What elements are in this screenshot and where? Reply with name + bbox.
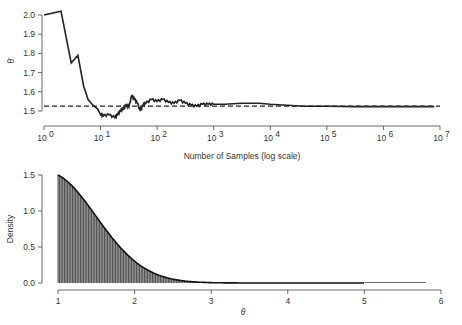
- top-y-tick-label: 1.8: [23, 48, 35, 58]
- top-x-tick-exponent: 4: [275, 129, 280, 139]
- bottom-y-tick-label: 1.0: [23, 206, 35, 216]
- top-x-tick-label: 10: [94, 133, 104, 143]
- top-x-tick-exponent: 1: [106, 129, 111, 139]
- bottom-y-axis: 0.00.51.01.5: [23, 170, 42, 288]
- top-y-tick-label: 1.7: [23, 68, 35, 78]
- bottom-x-tick-label: 3: [209, 296, 214, 306]
- top-x-tick-label: 10: [377, 133, 387, 143]
- top-y-tick-label: 1.6: [23, 87, 35, 97]
- bottom-plot: 0.00.51.01.5 123456 Density θ: [5, 170, 444, 317]
- running-mean-line: [44, 11, 434, 118]
- top-x-tick-label: 10: [207, 133, 217, 143]
- top-x-tick-label: 10: [264, 133, 274, 143]
- bottom-x-tick-label: 1: [56, 296, 61, 306]
- figure-canvas: 1.51.61.71.81.92.0 100101102103104105106…: [0, 0, 462, 325]
- top-y-tick-label: 1.9: [23, 29, 35, 39]
- top-y-axis-title: θ̄: [6, 57, 16, 64]
- top-x-tick-exponent: 6: [388, 129, 393, 139]
- top-x-tick-exponent: 0: [49, 129, 54, 139]
- figure: 1.51.61.71.81.92.0 100101102103104105106…: [0, 0, 462, 325]
- top-y-tick-label: 1.5: [23, 106, 35, 116]
- density-hatched-fill: [58, 175, 364, 283]
- top-x-axis: 100101102103104105106107: [37, 126, 450, 143]
- top-x-tick-exponent: 7: [445, 129, 450, 139]
- top-x-tick-exponent: 3: [219, 129, 224, 139]
- bottom-y-tick-label: 0.5: [23, 242, 35, 252]
- top-x-tick-label: 10: [320, 133, 330, 143]
- bottom-x-tick-label: 5: [362, 296, 367, 306]
- top-x-tick-label: 10: [37, 133, 47, 143]
- bottom-x-tick-label: 4: [285, 296, 290, 306]
- top-y-tick-label: 2.0: [23, 10, 35, 20]
- top-plot: 1.51.61.71.81.92.0 100101102103104105106…: [6, 10, 450, 161]
- top-x-tick-exponent: 2: [162, 129, 167, 139]
- bottom-x-tick-label: 6: [439, 296, 444, 306]
- bottom-x-tick-label: 2: [132, 296, 137, 306]
- top-y-axis: 1.51.61.71.81.92.0: [23, 10, 42, 116]
- bottom-x-axis-title: θ: [241, 307, 246, 317]
- bottom-y-axis-title: Density: [5, 214, 15, 243]
- top-x-tick-label: 10: [150, 133, 160, 143]
- top-x-tick-label: 10: [433, 133, 443, 143]
- bottom-x-axis: 123456: [56, 290, 444, 306]
- bottom-y-tick-label: 0.0: [23, 278, 35, 288]
- bottom-y-tick-label: 1.5: [23, 170, 35, 180]
- top-x-axis-title: Number of Samples (log scale): [184, 151, 301, 161]
- top-x-tick-exponent: 5: [332, 129, 337, 139]
